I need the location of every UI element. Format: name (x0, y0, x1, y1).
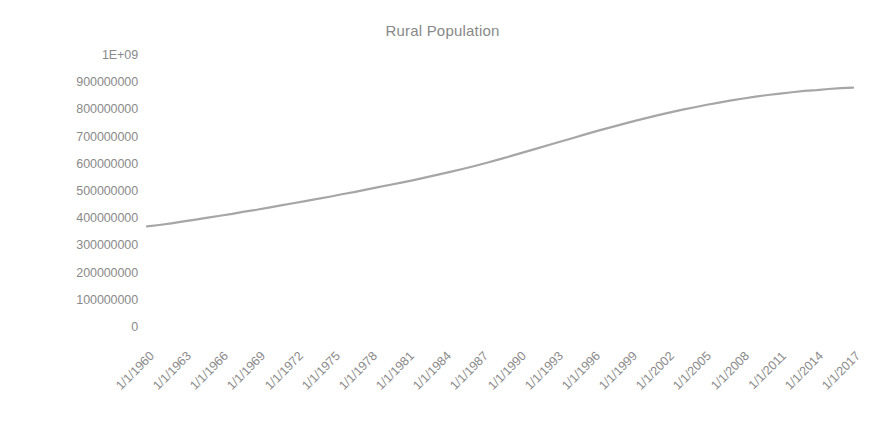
chart-container: Rural Population 1E+09900000000800000000… (0, 0, 885, 426)
x-axis: 1/1/19601/1/19631/1/19661/1/19691/1/1972… (0, 0, 885, 426)
